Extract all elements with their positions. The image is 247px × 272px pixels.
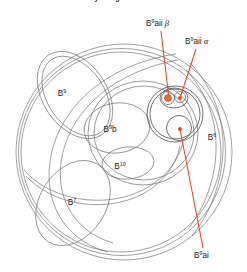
label-b9: B9 (58, 88, 66, 98)
marker-beta-dot (165, 95, 172, 102)
label-b7-sup: 7 (73, 197, 76, 203)
marker-ai-dot (178, 127, 182, 131)
embryo-lineage-diagram: B9 B9b B10 B7 B6 B9aiiβ B9aiiα B9ai (0, 0, 247, 272)
marker-alpha-dot (178, 96, 182, 100)
label-b9aii-alpha: B9aiiα (185, 36, 209, 46)
leader-line-b9aii-alpha (180, 49, 196, 98)
label-b9aii-beta: B9aiiβ (146, 18, 170, 28)
label-b6: B6 (208, 132, 216, 142)
label-b7: B7 (68, 197, 76, 207)
cell-b9-outline-inner (28, 44, 124, 149)
lobe-b6-group (186, 63, 223, 236)
label-b9ai-suffix: ai (202, 251, 209, 260)
figure-root: Reconstructed 4-cell embryo stage (0, 0, 247, 272)
cell-b10-outline (101, 145, 156, 181)
cell-b9-group (22, 37, 129, 152)
label-b10-sup: 10 (120, 161, 126, 167)
outer-circle-3 (21, 52, 221, 252)
label-b6-sup: 6 (213, 132, 216, 138)
label-b9aii-alpha-greek: α (204, 36, 209, 46)
cell-b9-outline (22, 37, 129, 152)
label-b9b-suffix: b (112, 125, 117, 134)
label-b9aii-beta-greek: β (164, 18, 170, 28)
spiral-arc-lower-2 (24, 142, 183, 200)
spiral-arc-mid (60, 60, 178, 243)
label-b9-sup: 9 (63, 88, 66, 94)
label-b10: B10 (114, 161, 125, 171)
label-b9aii-beta-suffix: aii (154, 19, 162, 28)
label-b9b: B9b (103, 124, 116, 134)
label-b9aii-alpha-suffix: aii (193, 37, 201, 46)
cell-b10-group (101, 145, 156, 181)
label-b9ai: B9ai (194, 250, 209, 260)
